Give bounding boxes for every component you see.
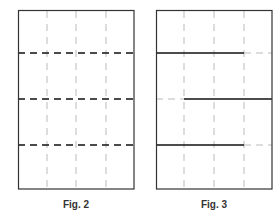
figure-3 bbox=[156, 11, 272, 190]
figure-2-caption: Fig. 2 bbox=[46, 199, 106, 210]
figure-2 bbox=[18, 11, 134, 190]
figure-3-caption: Fig. 3 bbox=[184, 199, 244, 210]
figures-canvas bbox=[0, 0, 279, 223]
